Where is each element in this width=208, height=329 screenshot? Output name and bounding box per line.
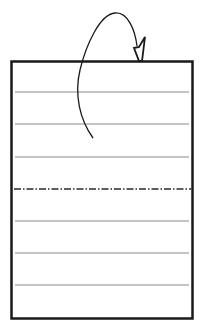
fold-diagram	[0, 0, 208, 329]
paper-sheet	[12, 62, 193, 319]
